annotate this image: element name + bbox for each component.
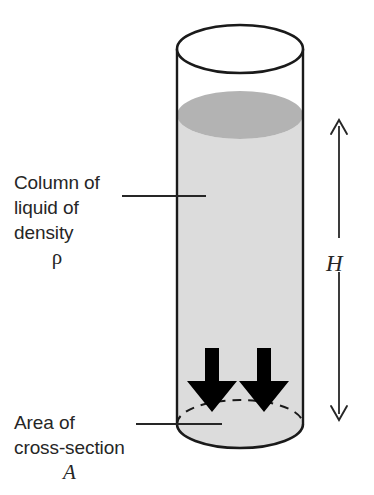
liquid-surface-ellipse bbox=[177, 91, 303, 139]
label-area-line1: Area of bbox=[14, 410, 125, 435]
label-area-of-cross-section: Area of cross-section A bbox=[14, 410, 125, 485]
label-area-line2: cross-section bbox=[14, 435, 125, 460]
cylinder-top-rim bbox=[177, 25, 303, 73]
label-column-of-liquid: Column of liquid of density ρ bbox=[14, 170, 100, 270]
label-column-line3: density bbox=[14, 220, 100, 245]
label-column-line1: Column of bbox=[14, 170, 100, 195]
liquid-body bbox=[177, 115, 303, 448]
label-column-line2: liquid of bbox=[14, 195, 100, 220]
label-area-symbol: A bbox=[14, 460, 125, 485]
label-height-symbol: H bbox=[326, 252, 343, 275]
label-density-symbol: ρ bbox=[14, 245, 100, 270]
